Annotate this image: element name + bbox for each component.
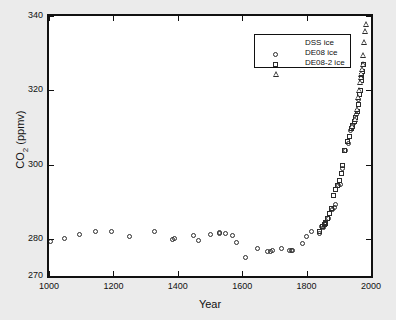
x-tick: [307, 271, 308, 276]
y-tick-label: 280: [9, 233, 43, 243]
data-point: [325, 216, 330, 221]
y-tick-label: 270: [9, 270, 43, 280]
chart-legend: DSS ice DE08 ice DE08-2 ice: [254, 34, 351, 68]
data-point: [290, 248, 295, 253]
data-point: [342, 148, 347, 153]
y-axis-title: CO2 (ppmv): [14, 70, 29, 210]
data-point: [208, 232, 213, 237]
data-point: [363, 21, 369, 27]
data-point: [360, 61, 366, 67]
data-point: [191, 233, 196, 238]
x-tick-label: 1800: [287, 281, 327, 291]
x-tick-label: 1200: [93, 281, 133, 291]
x-tick: [178, 271, 179, 276]
data-point: [196, 238, 201, 243]
data-point: [352, 116, 358, 122]
data-point: [243, 255, 248, 260]
y-tick: [49, 239, 54, 240]
data-point: [77, 232, 82, 237]
data-point: [62, 236, 67, 241]
data-point: [345, 139, 350, 144]
x-tick-top: [371, 16, 372, 21]
x-tick-top: [242, 16, 243, 21]
data-point: [217, 231, 222, 236]
x-tick-label: 1400: [158, 281, 198, 291]
x-tick: [113, 271, 114, 276]
data-point: [127, 234, 132, 239]
x-tick-label: 2000: [351, 281, 391, 291]
data-point: [360, 52, 366, 58]
data-point: [354, 106, 360, 112]
data-point: [356, 87, 362, 93]
data-point: [329, 206, 334, 211]
data-point: [309, 229, 314, 234]
data-point: [335, 183, 340, 188]
y-tick: [49, 276, 54, 277]
data-point: [331, 193, 336, 198]
data-point: [337, 178, 342, 183]
data-point: [93, 229, 98, 234]
data-point: [339, 171, 344, 176]
y-tick: [49, 90, 54, 91]
y-tick-right: [366, 90, 371, 91]
data-point: [279, 246, 284, 251]
y-tick-right: [366, 276, 371, 277]
x-tick-top: [113, 16, 114, 21]
y-axis-title-base: CO: [14, 152, 26, 169]
legend-entry-de08: DE08 ice: [255, 48, 350, 58]
y-axis-title-sub: 2: [21, 148, 30, 152]
x-tick-top: [307, 16, 308, 21]
data-point: [230, 233, 235, 238]
data-point: [172, 236, 177, 241]
y-tick-right: [366, 16, 371, 17]
data-point: [355, 94, 361, 100]
data-point: [347, 134, 352, 139]
data-point: [361, 39, 367, 45]
data-point: [304, 234, 309, 239]
legend-label-de08: DE08 ice: [305, 48, 337, 57]
x-tick: [371, 271, 372, 276]
y-tick-right: [366, 165, 371, 166]
legend-label-dss: DSS ice: [305, 38, 334, 47]
y-tick: [49, 165, 54, 166]
data-point: [349, 123, 355, 129]
plot-area: DSS ice DE08 ice DE08-2 ice: [47, 14, 373, 278]
data-point: [317, 229, 322, 234]
legend-entry-de08-2: DE08-2 ice: [255, 58, 350, 68]
data-point: [270, 248, 275, 253]
y-tick: [49, 16, 54, 17]
data-point: [109, 229, 114, 234]
data-point: [327, 211, 332, 216]
data-point: [152, 229, 157, 234]
x-tick-top: [178, 16, 179, 21]
data-point: [255, 246, 260, 251]
data-point: [340, 163, 345, 168]
data-point: [234, 240, 239, 245]
y-tick-right: [366, 239, 371, 240]
y-tick-label: 340: [9, 10, 43, 20]
chart-figure: DSS ice DE08 ice DE08-2 ice 100012001400…: [0, 0, 396, 320]
x-tick-label: 1000: [29, 281, 69, 291]
legend-label-de08-2: DE08-2 ice: [305, 58, 345, 67]
data-point: [300, 241, 305, 246]
legend-entry-dss: DSS ice: [255, 38, 350, 48]
data-point: [223, 231, 228, 236]
x-tick-label: 1600: [222, 281, 262, 291]
data-point: [362, 28, 368, 34]
data-point: [359, 66, 365, 72]
y-axis-title-unit: (ppmv): [14, 110, 26, 147]
legend-marker-triangle-icon: [273, 63, 279, 81]
x-tick: [242, 271, 243, 276]
x-axis-title: Year: [47, 298, 373, 310]
